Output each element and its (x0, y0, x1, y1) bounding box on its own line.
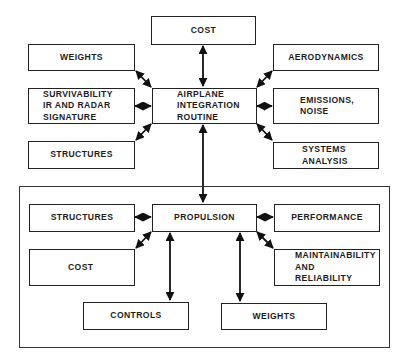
maintainability-line-1: MAINTAINABILITY (295, 250, 376, 262)
propulsion-weights-box: WEIGHTS (221, 303, 327, 330)
propulsion-box: PROPULSION (152, 204, 257, 232)
performance-box: PERFORMANCE (274, 204, 380, 232)
arrow-hub-structures (136, 124, 151, 140)
aerodynamics-label: AERODYNAMICS (288, 52, 363, 64)
survivability-line-2: IR AND RADAR (43, 100, 113, 112)
hub-label-line-2: INTEGRATION (177, 100, 240, 112)
propulsion-cost-label: COST (68, 262, 93, 274)
arrow-hub-aerodynamics (257, 71, 272, 87)
performance-label: PERFORMANCE (291, 212, 363, 224)
maintainability-reliability-box: MAINTAINABILITY AND RELIABILITY (274, 249, 380, 286)
airplane-integration-routine-box: AIRPLANE INTEGRATION ROUTINE (152, 88, 257, 124)
controls-label: CONTROLS (110, 310, 161, 322)
maintainability-line-2: AND (295, 262, 376, 274)
arrow-hub-systems (257, 124, 272, 140)
survivability-line-1: SURVIVABILITY (43, 89, 113, 101)
systems-line-1: SYSTEMS (302, 144, 348, 156)
propulsion-structures-box: STRUCTURES (29, 204, 135, 232)
systems-analysis-box: SYSTEMS ANALYSIS (273, 142, 379, 169)
weights-label: WEIGHTS (60, 52, 103, 64)
survivability-box: SURVIVABILITY IR AND RADAR SIGNATURE (28, 88, 135, 124)
emissions-line-2: NOISE (300, 106, 354, 118)
cost-label: COST (191, 25, 216, 37)
structures-label: STRUCTURES (50, 149, 113, 161)
aerodynamics-box: AERODYNAMICS (273, 44, 379, 71)
propulsion-label: PROPULSION (174, 212, 235, 224)
weights-box: WEIGHTS (28, 44, 135, 71)
controls-box: CONTROLS (83, 302, 189, 330)
emissions-noise-box: EMISSIONS, NOISE (273, 88, 379, 124)
hub-label-line-3: ROUTINE (177, 112, 240, 124)
arrow-hub-weights (136, 71, 151, 87)
emissions-line-1: EMISSIONS, (300, 95, 354, 107)
maintainability-line-3: RELIABILITY (295, 273, 376, 285)
structures-box: STRUCTURES (28, 141, 135, 169)
propulsion-structures-label: STRUCTURES (51, 212, 114, 224)
survivability-line-3: SIGNATURE (43, 112, 113, 124)
cost-box: COST (151, 16, 256, 45)
systems-line-2: ANALYSIS (302, 156, 348, 168)
propulsion-weights-label: WEIGHTS (253, 311, 296, 323)
propulsion-cost-box: COST (29, 249, 135, 286)
hub-label-line-1: AIRPLANE (177, 89, 240, 101)
